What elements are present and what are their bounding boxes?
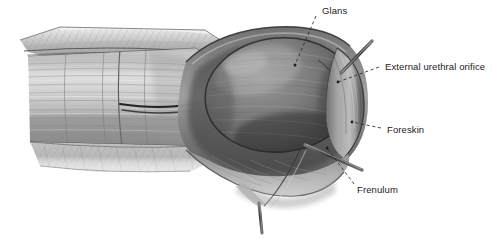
label-frenulum: Frenulum xyxy=(357,184,398,195)
label-foreskin: Foreskin xyxy=(387,124,424,135)
anatomical-figure: Glans External urethral orifice Foreskin… xyxy=(0,0,501,243)
label-external-urethral-orifice: External urethral orifice xyxy=(385,61,485,72)
label-glans: Glans xyxy=(322,5,347,16)
illustration-canvas xyxy=(0,0,501,243)
